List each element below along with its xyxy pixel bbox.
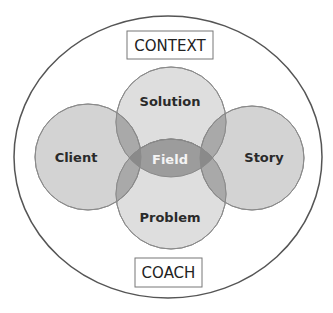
coach-label-box: COACH <box>135 258 202 287</box>
context-label-box: CONTEXT <box>127 31 213 59</box>
coach-label: COACH <box>142 264 196 282</box>
context-label: CONTEXT <box>134 37 206 55</box>
field-label: Field <box>152 152 188 167</box>
solution-label: Solution <box>140 94 201 109</box>
problem-label: Problem <box>140 210 201 225</box>
client-label: Client <box>55 150 98 165</box>
coaching-diagram: CONTEXT Solution Client Story Problem <box>0 0 333 313</box>
story-label: Story <box>244 150 284 165</box>
